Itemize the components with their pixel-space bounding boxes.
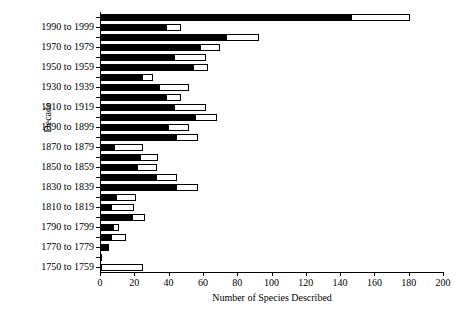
bar-segment-black: [100, 84, 160, 91]
bar-segment-black: [100, 64, 194, 71]
bar-row: [100, 44, 220, 51]
bar-segment-white: [112, 204, 134, 211]
x-tick: [169, 272, 170, 276]
bar-segment-white: [160, 84, 189, 91]
bar-segment-black: [100, 34, 227, 41]
bar-row: [100, 114, 217, 121]
bar-segment-black: [100, 234, 112, 241]
bar-row: [100, 24, 181, 31]
y-tick: [96, 107, 100, 108]
bar-row: [100, 204, 134, 211]
y-tick-label: 1790 to 1799: [8, 222, 94, 232]
bar-segment-black: [100, 154, 141, 161]
chart-figure: Decade Number of Species Described 1990 …: [0, 0, 472, 315]
bar-segment-white: [194, 64, 208, 71]
bar-segment-black: [100, 104, 175, 111]
y-tick: [96, 137, 100, 138]
bar-row: [100, 254, 102, 261]
y-tick: [96, 217, 100, 218]
x-tick: [340, 272, 341, 276]
bar-segment-black: [100, 194, 117, 201]
y-tick: [96, 97, 100, 98]
bar-segment-white: [352, 14, 410, 21]
bar-segment-black: [100, 14, 352, 21]
y-tick: [96, 237, 100, 238]
bar-segment-white: [201, 44, 220, 51]
bar-row: [100, 104, 206, 111]
y-tick: [96, 157, 100, 158]
y-tick-label: 1770 to 1779: [8, 242, 94, 252]
x-tick: [237, 272, 238, 276]
bar-segment-black: [100, 24, 167, 31]
y-tick-label: 1990 to 1999: [8, 22, 94, 32]
y-tick: [96, 187, 100, 188]
bar-segment-black: [100, 114, 196, 121]
bar-row: [100, 84, 189, 91]
y-tick-label: 1850 to 1859: [8, 162, 94, 172]
x-tick: [134, 272, 135, 276]
y-tick-label: 1830 to 1839: [8, 182, 94, 192]
bar-segment-black: [100, 204, 112, 211]
x-tick: [100, 272, 101, 276]
x-axis-title: Number of Species Described: [100, 292, 444, 303]
x-tick: [203, 272, 204, 276]
bar-segment-white: [177, 184, 198, 191]
y-tick: [96, 17, 100, 18]
bar-segment-white: [114, 224, 119, 231]
x-tick: [306, 272, 307, 276]
bar-segment-black: [100, 124, 169, 131]
bar-segment-white: [167, 94, 181, 101]
bar-row: [100, 74, 153, 81]
bar-row: [100, 134, 198, 141]
y-tick: [96, 147, 100, 148]
y-tick: [96, 167, 100, 168]
bar-row: [100, 174, 177, 181]
bar-row: [100, 214, 145, 221]
bar-row: [100, 154, 158, 161]
y-tick: [96, 227, 100, 228]
bar-segment-white: [102, 264, 143, 271]
y-tick: [96, 67, 100, 68]
y-tick: [96, 207, 100, 208]
bar-segment-black: [100, 144, 115, 151]
bar-segment-black: [100, 214, 133, 221]
y-tick: [96, 57, 100, 58]
bar-row: [100, 144, 143, 151]
bar-row: [100, 64, 208, 71]
bar-segment-black: [100, 224, 114, 231]
y-tick: [96, 197, 100, 198]
y-tick-label: 1870 to 1879: [8, 142, 94, 152]
bar-row: [100, 224, 119, 231]
bar-segment-white: [138, 164, 157, 171]
bar-segment-white: [227, 34, 260, 41]
bar-segment-white: [141, 154, 158, 161]
y-tick: [96, 177, 100, 178]
x-tick: [272, 272, 273, 276]
y-tick-label: 1970 to 1979: [8, 42, 94, 52]
bar-segment-white: [175, 104, 206, 111]
bar-segment-white: [112, 234, 126, 241]
bar-segment-black: [100, 254, 102, 261]
y-tick-label: 1750 to 1759: [8, 262, 94, 272]
y-tick-label: 1810 to 1819: [8, 202, 94, 212]
y-tick: [96, 77, 100, 78]
bar-segment-black: [100, 164, 138, 171]
bar-segment-white: [169, 124, 190, 131]
bar-row: [100, 244, 109, 251]
y-tick: [96, 247, 100, 248]
bar-segment-black: [100, 184, 177, 191]
y-tick: [96, 257, 100, 258]
bar-segment-white: [143, 74, 153, 81]
bar-row: [100, 234, 126, 241]
plot-area: [100, 12, 443, 272]
bar-row: [100, 54, 206, 61]
bar-segment-white: [157, 174, 178, 181]
bar-segment-black: [100, 244, 109, 251]
bar-segment-black: [100, 74, 143, 81]
bar-segment-black: [100, 134, 177, 141]
bar-row: [100, 94, 181, 101]
bar-segment-black: [100, 94, 167, 101]
x-tick: [409, 272, 410, 276]
bar-segment-white: [115, 144, 142, 151]
bar-segment-black: [100, 44, 201, 51]
